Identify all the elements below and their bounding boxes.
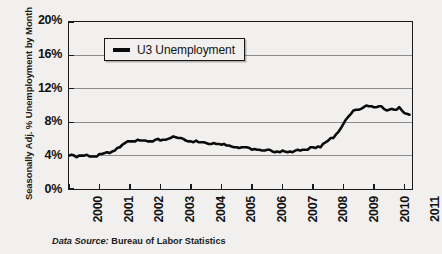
caption-label: Data Source:	[52, 236, 109, 246]
x-axis-tick-labels: 2000200120022003200420052006200720082009…	[68, 190, 413, 238]
y-tick-label: 0%	[28, 182, 62, 196]
data-source-caption: Data Source: Bureau of Labor Statistics	[52, 236, 226, 246]
y-tick-label: 12%	[28, 81, 62, 95]
y-tick-label: 4%	[28, 148, 62, 162]
x-tick-label: 2007	[306, 196, 320, 242]
x-tick-label: 2010	[398, 196, 412, 242]
x-tick-label: 2011	[428, 196, 442, 242]
legend-line-swatch-icon	[113, 48, 130, 52]
caption-value: Bureau of Labor Statistics	[111, 236, 225, 246]
y-axis-tick-labels: 0%4%8%12%16%20%	[28, 0, 62, 254]
y-tick-label: 8%	[28, 114, 62, 128]
y-tick-label: 20%	[28, 13, 62, 27]
y-tick-label: 16%	[28, 47, 62, 61]
x-tick-label: 2006	[275, 196, 289, 242]
x-tick-label: 2005	[244, 196, 258, 242]
legend-label: U3 Unemployment	[137, 43, 235, 57]
x-tick-label: 2009	[367, 196, 381, 242]
chart-legend: U3 Unemployment	[104, 38, 245, 61]
x-tick-label: 2008	[336, 196, 350, 242]
